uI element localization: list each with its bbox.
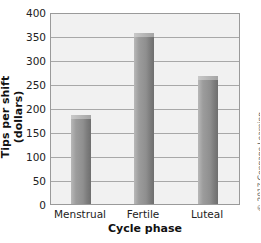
x-tick-menstrual: Menstrual [45, 208, 115, 220]
plot-area [50, 13, 240, 205]
y-tick-400: 400 [6, 7, 46, 19]
bar-fertile [134, 36, 154, 204]
y-tick-350: 350 [6, 31, 46, 43]
y-tick-300: 300 [6, 55, 46, 67]
y-tick-50: 50 [6, 175, 46, 187]
y-tick-200: 200 [6, 103, 46, 115]
bar-luteal [198, 79, 218, 204]
y-tick-250: 250 [6, 79, 46, 91]
y-tick-0: 0 [6, 199, 46, 211]
y-tick-100: 100 [6, 151, 46, 163]
x-axis-label: Cycle phase [0, 222, 260, 235]
copyright-credit: © 2017 Cengage Learning [256, 82, 261, 212]
x-tick-fertile: Fertile [108, 208, 178, 220]
y-tick-150: 150 [6, 127, 46, 139]
bar-menstrual [71, 118, 91, 204]
x-tick-luteal: Luteal [172, 208, 242, 220]
